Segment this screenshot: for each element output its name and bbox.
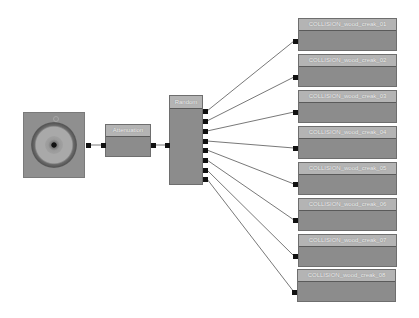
wave-node-07[interactable]: COLLISION_wood_creak_07	[298, 234, 397, 267]
random-input-port[interactable]	[165, 143, 170, 148]
wave-node-03-input-port[interactable]	[293, 110, 298, 115]
wave-node-title: COLLISION_wood_creak_02	[299, 55, 396, 67]
wave-node-05-input-port[interactable]	[293, 182, 298, 187]
speaker-cone-icon	[45, 136, 63, 154]
wave-node-03[interactable]: COLLISION_wood_creak_03	[298, 90, 397, 123]
random-output-port-3[interactable]	[203, 129, 208, 134]
attenuation-node[interactable]: Attenuation	[105, 124, 151, 157]
wave-node-05[interactable]: COLLISION_wood_creak_05	[298, 162, 397, 195]
wave-node-01-input-port[interactable]	[293, 39, 298, 44]
source-output-port[interactable]	[86, 143, 91, 148]
random-output-port-2[interactable]	[203, 119, 208, 124]
wave-node-06[interactable]: COLLISION_wood_creak_06	[298, 198, 397, 231]
wave-node-title: COLLISION_wood_creak_04	[299, 127, 396, 139]
random-output-port-1[interactable]	[203, 109, 208, 114]
attenuation-output-port[interactable]	[151, 143, 156, 148]
random-output-port-5[interactable]	[203, 148, 208, 153]
wave-node-06-input-port[interactable]	[293, 218, 298, 223]
wave-node-01[interactable]: COLLISION_wood_creak_01	[298, 18, 397, 51]
attenuation-node-title: Attenuation	[106, 125, 150, 137]
wave-node-title: COLLISION_wood_creak_07	[299, 235, 396, 247]
wave-node-title: COLLISION_wood_creak_01	[299, 19, 396, 31]
wave-node-title: COLLISION_wood_creak_06	[299, 199, 396, 211]
sound-source-node[interactable]	[23, 112, 85, 178]
wave-node-08-input-port[interactable]	[292, 290, 297, 295]
random-output-port-6[interactable]	[203, 158, 208, 163]
wave-node-title: COLLISION_wood_creak_05	[299, 163, 396, 175]
wave-node-07-input-port[interactable]	[293, 254, 298, 259]
wave-node-08[interactable]: COLLISION_wood_creak_08	[297, 269, 396, 302]
wave-node-04-input-port[interactable]	[293, 146, 298, 151]
random-output-port-4[interactable]	[203, 139, 208, 144]
random-output-port-8[interactable]	[203, 177, 208, 182]
attenuation-input-port[interactable]	[101, 143, 106, 148]
speaker-icon	[31, 122, 77, 168]
random-node-title: Random	[170, 96, 202, 109]
wave-node-title: COLLISION_wood_creak_08	[298, 270, 395, 282]
wave-node-02[interactable]: COLLISION_wood_creak_02	[298, 54, 397, 87]
wave-node-title: COLLISION_wood_creak_03	[299, 91, 396, 103]
wave-node-02-input-port[interactable]	[293, 75, 298, 80]
random-node[interactable]: Random	[169, 95, 203, 185]
random-output-port-7[interactable]	[203, 168, 208, 173]
wave-node-04[interactable]: COLLISION_wood_creak_04	[298, 126, 397, 159]
